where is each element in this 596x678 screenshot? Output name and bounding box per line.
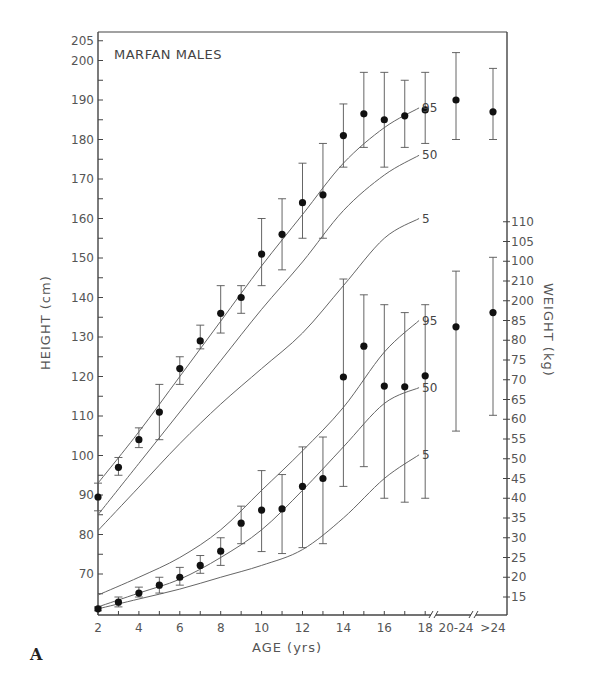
x-tick-label: 8	[217, 621, 225, 635]
x-tick-label: 6	[176, 621, 184, 635]
y-left-tick-label: 160	[71, 212, 94, 226]
weight-data-point	[135, 589, 142, 596]
y-left-tick-label: 130	[71, 330, 94, 344]
y-right-tick-label: 30	[511, 531, 526, 545]
height-data-point	[278, 231, 285, 238]
x-tick-label: 4	[135, 621, 143, 635]
height-percentile-50-curve	[98, 155, 419, 514]
height-data-point	[381, 116, 388, 123]
height-data-point	[94, 493, 101, 500]
y-left-tick-label: 150	[71, 251, 94, 265]
weight-percentile-label: 50	[422, 381, 437, 395]
weight-data-point	[381, 382, 388, 389]
height-percentile-label: 50	[422, 148, 437, 162]
height-data-point	[258, 250, 265, 257]
y-left-tick-label: 200	[71, 54, 94, 68]
height-data-point	[452, 96, 459, 103]
weight-data-point	[217, 548, 224, 555]
y-left-tick-label: 190	[71, 93, 94, 107]
y-right-tick-label: 45	[511, 472, 526, 486]
y-right-tick-label: 70	[511, 373, 526, 387]
height-data-point	[319, 191, 326, 198]
y-right-tick-label: 25	[511, 551, 526, 565]
weight-data-point	[340, 373, 347, 380]
y-right-tick-label: 20	[511, 570, 526, 584]
weight-data-point	[115, 599, 122, 606]
height-data-point	[340, 132, 347, 139]
height-data-point	[115, 464, 122, 471]
weight-data-point	[360, 343, 367, 350]
weight-data-point	[156, 582, 163, 589]
y-right-tick-label: 200	[511, 294, 534, 308]
height-percentile-95-curve	[98, 108, 419, 483]
y-right-tick-label: 75	[511, 353, 526, 367]
y-left-tick-label: 140	[71, 291, 94, 305]
y-left-tick-label: 180	[71, 133, 94, 147]
weight-data-point	[258, 507, 265, 514]
chart-title: MARFAN MALES	[114, 47, 222, 62]
x-tick-label: 12	[295, 621, 310, 635]
height-data-point	[401, 112, 408, 119]
weight-data-point	[452, 323, 459, 330]
y-left-tick-label: 170	[71, 172, 94, 186]
y-right-tick-label: 55	[511, 432, 526, 446]
x-tick-label: 20-24	[439, 621, 474, 635]
y-left-tick-label: 80	[79, 528, 94, 542]
reference-curves	[98, 108, 419, 609]
y-left-tick-label: 120	[71, 370, 94, 384]
y-right-tick-label: 65	[511, 393, 526, 407]
x-tick-label: 14	[336, 621, 351, 635]
weight-data-point	[176, 574, 183, 581]
y-right-tick-label: 105	[511, 235, 534, 249]
y-right-tick-label: 85	[511, 314, 526, 328]
x-tick-label: 18	[418, 621, 433, 635]
height-data-point	[135, 436, 142, 443]
weight-data-point	[319, 475, 326, 482]
weight-data-point	[299, 483, 306, 490]
y-right-tick-label: 110	[511, 215, 534, 229]
y-right-tick-label: 100	[511, 254, 534, 268]
x-tick-label: >24	[480, 621, 505, 635]
weight-percentile-label: 5	[422, 448, 430, 462]
height-data-point	[238, 294, 245, 301]
weight-data-point	[238, 520, 245, 527]
plot-frame	[98, 32, 510, 618]
weight-data-point	[94, 605, 101, 612]
y-right-tick-label: 40	[511, 491, 526, 505]
height-data-point	[197, 337, 204, 344]
height-data-point	[360, 110, 367, 117]
weight-percentile-95-curve	[98, 321, 419, 596]
x-tick-label: 16	[377, 621, 392, 635]
height-data-point	[489, 108, 496, 115]
weight-data-point	[401, 383, 408, 390]
x-axis-title: AGE (yrs)	[252, 640, 322, 655]
y-right-tick-label: 60	[511, 412, 526, 426]
panel-label: A	[29, 645, 43, 664]
y-right-tick-label: 80	[511, 333, 526, 347]
height-percentile-5-curve	[98, 219, 419, 531]
growth-chart: 2468101214161820-24>24205200190180170160…	[0, 0, 596, 678]
height-data-point	[156, 408, 163, 415]
height-data-point	[299, 199, 306, 206]
height-data-point	[176, 365, 183, 372]
weight-percentile-label: 95	[422, 314, 437, 328]
y-right-tick-label: 50	[511, 452, 526, 466]
x-tick-label: 2	[94, 621, 102, 635]
height-percentile-label: 5	[422, 212, 430, 226]
y-left-tick-label: 110	[71, 409, 94, 423]
y-left-tick-label: 100	[71, 449, 94, 463]
y-left-tick-label: 205	[71, 34, 94, 48]
weight-data-point	[278, 505, 285, 512]
y-left-tick-label: 90	[79, 488, 94, 502]
height-percentile-label: 95	[422, 101, 437, 115]
y-right-tick-label: 210	[511, 274, 534, 288]
y-axis-left-title: HEIGHT (cm)	[38, 275, 53, 370]
y-right-tick-label: 15	[511, 590, 526, 604]
data-points	[94, 53, 497, 613]
height-data-point	[217, 310, 224, 317]
x-tick-label: 10	[254, 621, 269, 635]
weight-data-point	[422, 372, 429, 379]
weight-data-point	[197, 562, 204, 569]
weight-data-point	[489, 309, 496, 316]
y-left-tick-label: 70	[79, 567, 94, 581]
